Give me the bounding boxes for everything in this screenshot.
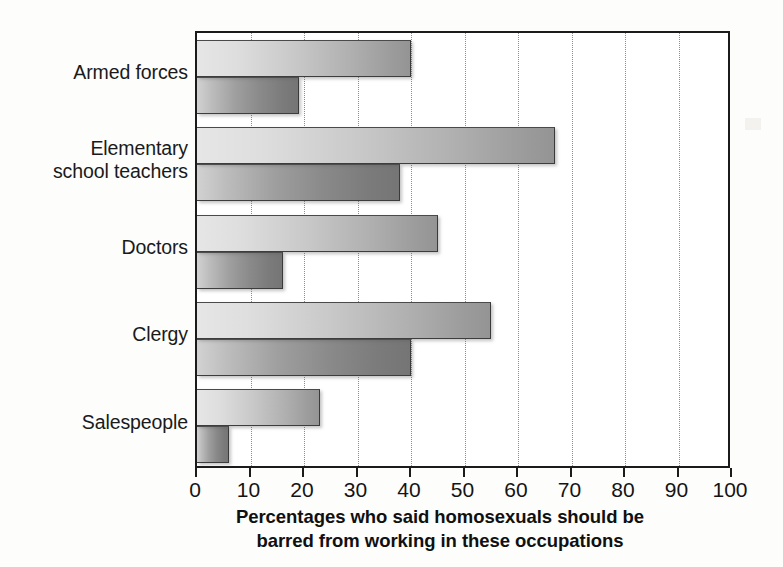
x-tick-label-90: 90: [665, 478, 688, 502]
x-tick-label-80: 80: [611, 478, 634, 502]
bar-1977-elementary-school-teachers: [197, 127, 555, 164]
x-tick-10: [249, 468, 251, 477]
y-axis-category-labels: Armed forcesElementaryschool teachersDoc…: [0, 31, 188, 468]
bar-2003-salespeople: [197, 426, 229, 463]
x-tick-80: [623, 468, 625, 477]
bar-2003-clergy: [197, 339, 411, 376]
x-tick-label-30: 30: [344, 478, 367, 502]
bar-2003-elementary-school-teachers: [197, 164, 400, 201]
category-label-line: Clergy: [0, 323, 188, 346]
bar-group-salespeople: [197, 389, 728, 463]
bar-1977-clergy: [197, 302, 491, 339]
x-tick-0: [195, 468, 197, 477]
bar-group-elementary-school-teachers: [197, 127, 728, 201]
x-tick-60: [516, 468, 518, 477]
x-tick-30: [356, 468, 358, 477]
x-tick-50: [463, 468, 465, 477]
bar-group-armed-forces: [197, 40, 728, 114]
x-axis-title-line-1: Percentages who said homosexuals should …: [150, 505, 730, 529]
bar-1977-salespeople: [197, 389, 320, 426]
category-label-line: Salespeople: [0, 411, 188, 434]
bar-1977-armed-forces: [197, 40, 411, 77]
x-tick-20: [302, 468, 304, 477]
x-tick-label-10: 10: [237, 478, 260, 502]
plot-area: 19772003: [195, 31, 730, 468]
category-label-line: Elementary: [0, 137, 188, 160]
category-label-line: school teachers: [0, 160, 188, 183]
category-label-elementary-school-teachers: Elementaryschool teachers: [0, 137, 188, 183]
x-tick-label-60: 60: [504, 478, 527, 502]
category-label-clergy: Clergy: [0, 323, 188, 346]
category-label-line: Armed forces: [0, 61, 188, 84]
x-tick-40: [409, 468, 411, 477]
scan-artifact: [745, 118, 761, 130]
chart-figure: Armed forcesElementaryschool teachersDoc…: [0, 0, 783, 567]
bar-1977-doctors: [197, 215, 438, 252]
bar-2003-doctors: [197, 252, 283, 289]
x-axis-tick-labels: 0102030405060708090100: [195, 478, 730, 504]
bar-group-clergy: [197, 302, 728, 376]
x-tick-label-20: 20: [290, 478, 313, 502]
x-tick-100: [730, 468, 732, 477]
x-axis-title: Percentages who said homosexuals should …: [150, 505, 730, 553]
x-tick-90: [677, 468, 679, 477]
x-tick-label-100: 100: [712, 478, 747, 502]
x-tick-label-40: 40: [397, 478, 420, 502]
category-label-armed-forces: Armed forces: [0, 61, 188, 84]
bars-container: [197, 33, 728, 466]
x-axis-ticks: [195, 468, 730, 478]
category-label-doctors: Doctors: [0, 236, 188, 259]
category-label-line: Doctors: [0, 236, 188, 259]
x-tick-label-0: 0: [189, 478, 201, 502]
category-label-salespeople: Salespeople: [0, 411, 188, 434]
bar-group-doctors: [197, 215, 728, 289]
x-tick-70: [570, 468, 572, 477]
x-tick-label-50: 50: [451, 478, 474, 502]
bar-2003-armed-forces: [197, 77, 299, 114]
x-axis-title-line-2: barred from working in these occupations: [150, 529, 730, 553]
x-tick-label-70: 70: [558, 478, 581, 502]
